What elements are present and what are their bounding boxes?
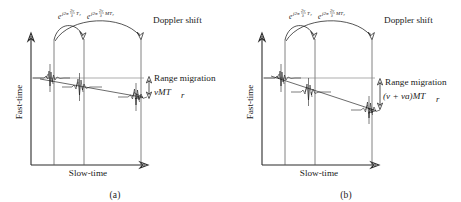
doppler-exponential-1-b: e j2π 2v λ T r: [289, 8, 313, 21]
panel-b: Range migration Doppler shift (v + va)MT…: [231, 0, 461, 202]
y-axis-label-a: Fast-time: [14, 85, 24, 120]
doppler-exponential-2-b: e j2π 2v λ MT r: [318, 8, 345, 21]
exp1-sup-tail-sub-a: r: [80, 13, 82, 17]
exp2-sup-lead-b: j2π: [321, 11, 329, 16]
migration-amount-main-a: vMT: [154, 87, 172, 97]
range-migration-arrow-a: [146, 77, 151, 99]
pulse-lines-b: [285, 39, 372, 165]
radar-range-migration-figure: Range migration Doppler shift vMT r e j2…: [0, 0, 461, 202]
y-axis-a: [28, 33, 34, 165]
range-migration-label-b: Range migration: [385, 77, 447, 87]
exp2-frac-num-a: 2v: [99, 8, 103, 13]
doppler-shift-label-a: Doppler shift: [153, 15, 202, 25]
migration-track-a: [40, 79, 143, 99]
pulse-lines-a: [54, 39, 141, 165]
exp2-frac-den-b: λ: [330, 13, 333, 18]
doppler-arc-long-a: [55, 21, 143, 41]
panel-a-caption: (a): [0, 190, 230, 200]
doppler-arc-long-b: [286, 21, 374, 41]
echo-spike-2-a: [62, 73, 102, 101]
panel-a: Range migration Doppler shift vMT r e j2…: [0, 0, 230, 202]
panel-b-caption: (b): [231, 190, 461, 200]
migration-track-b: [271, 76, 376, 113]
echo-spike-2-b: [291, 78, 331, 106]
migration-amount-sub-a: r: [181, 90, 185, 100]
exp1-frac-den-a: λ: [70, 13, 73, 18]
x-axis-label-a: Slow-time: [69, 168, 107, 178]
exp1-frac-num-a: 2v: [70, 8, 74, 13]
exp1-frac-num-b: 2v: [301, 8, 305, 13]
echo-spike-3-b: [351, 96, 380, 124]
exp2-sup-tail-sub-b: r: [343, 13, 345, 17]
migration-amount-sub-b: r: [436, 94, 440, 104]
echo-spike-3-a: [118, 83, 147, 111]
exp1-sup-lead-b: j2π: [292, 11, 300, 16]
y-axis-label-b: Fast-time: [245, 85, 255, 120]
x-axis-label-b: Slow-time: [300, 168, 338, 178]
migration-amount-label-b: (v + va)MT r: [383, 91, 440, 104]
range-migration-label-a: Range migration: [154, 73, 216, 83]
exp2-frac-num-b: 2v: [330, 8, 334, 13]
exp1-sup-lead-a: j2π: [61, 11, 69, 16]
exp1-sup-tail-sub-b: r: [311, 13, 313, 17]
echo-spike-1-a: [33, 64, 70, 92]
migration-amount-label-a: vMT r: [154, 87, 185, 100]
exp2-sup-tail-sub-a: r: [112, 13, 114, 17]
exp1-frac-den-b: λ: [301, 13, 304, 18]
exp2-frac-den-a: λ: [99, 13, 102, 18]
echo-spike-1-b: [264, 64, 301, 92]
y-axis-b: [259, 33, 265, 165]
exp2-sup-lead-a: j2π: [90, 11, 98, 16]
range-migration-arrow-b: [377, 79, 382, 110]
doppler-exponential-1-a: e j2π 2v λ T r: [58, 8, 82, 21]
doppler-exponential-2-a: e j2π 2v λ MT r: [87, 8, 114, 21]
doppler-shift-label-b: Doppler shift: [384, 15, 433, 25]
migration-amount-main-b: (v + va)MT: [383, 91, 426, 101]
